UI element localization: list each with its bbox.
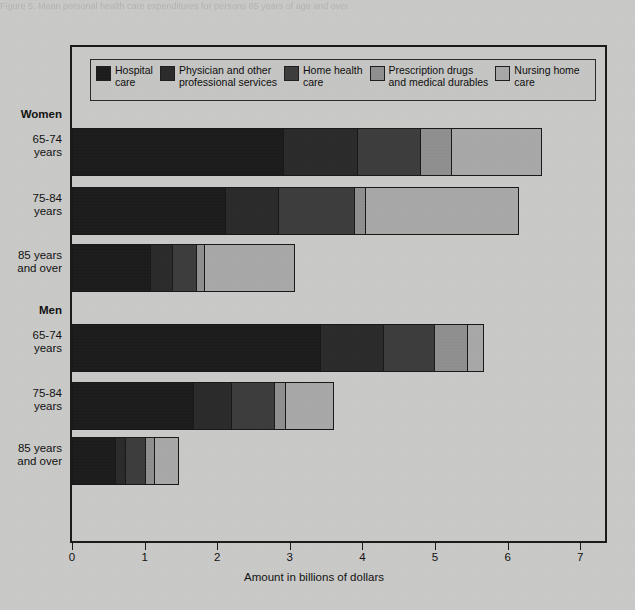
stacked-bar xyxy=(72,128,542,176)
bar-segment xyxy=(146,438,155,484)
bar-segment xyxy=(286,383,334,429)
chart-legend: Hospital care Physician and other profes… xyxy=(90,59,596,101)
bar-segment xyxy=(421,129,452,175)
x-tick-label: 4 xyxy=(359,551,365,563)
x-tick-mark xyxy=(290,543,291,550)
x-tick-label: 6 xyxy=(504,551,510,563)
bar-segment xyxy=(435,325,468,371)
stacked-bar xyxy=(72,244,295,292)
x-tick-mark xyxy=(362,543,363,550)
legend-item-home-health-care: Home health care xyxy=(284,65,363,88)
category-label-men-65-74: 65-74 years xyxy=(0,329,62,355)
x-tick-mark xyxy=(145,543,146,550)
bar-segment xyxy=(155,438,179,484)
bar-segment xyxy=(194,383,232,429)
legend-label-home-health-care: Home health care xyxy=(303,65,363,88)
bar-segment xyxy=(116,438,126,484)
bar-segment xyxy=(321,325,384,371)
bar-segment xyxy=(73,438,116,484)
category-label-women-65-74: 65-74 years xyxy=(0,133,62,159)
bar-segment xyxy=(284,129,358,175)
bar-segment xyxy=(232,383,275,429)
group-label-women: Women xyxy=(0,108,62,121)
x-tick-label: 1 xyxy=(141,551,147,563)
group-label-men: Men xyxy=(0,304,62,317)
category-label-men-85-over: 85 years and over xyxy=(0,442,62,468)
legend-item-hospital-care: Hospital care xyxy=(96,65,153,88)
x-tick-label: 0 xyxy=(69,551,75,563)
category-label-men-75-84: 75-84 years xyxy=(0,387,62,413)
category-label-women-85-over: 85 years and over xyxy=(0,249,62,275)
figure-chart: Hospital care Physician and other profes… xyxy=(8,22,620,588)
x-tick-label: 5 xyxy=(432,551,438,563)
legend-item-physician-services: Physician and other professional service… xyxy=(160,65,277,88)
x-tick-mark xyxy=(72,543,73,550)
bar-segment xyxy=(173,245,197,291)
x-axis-title: Amount in billions of dollars xyxy=(8,571,620,583)
bar-segment xyxy=(358,129,420,175)
bar-segment xyxy=(126,438,146,484)
bar-segment xyxy=(73,245,151,291)
bar-segment xyxy=(279,188,355,234)
scan-top-caption: Figure 5. Mean personal health care expe… xyxy=(0,0,635,12)
bar-segment xyxy=(275,383,285,429)
legend-label-nursing-home-care: Nursing home care xyxy=(514,65,579,88)
legend-label-physician-services: Physician and other professional service… xyxy=(179,65,277,88)
x-tick-mark xyxy=(435,543,436,550)
x-tick-label: 2 xyxy=(214,551,220,563)
bar-segment xyxy=(73,383,194,429)
category-label-women-75-84: 75-84 years xyxy=(0,192,62,218)
legend-swatch-prescription-drugs xyxy=(370,66,385,81)
stacked-bar xyxy=(72,382,334,430)
legend-swatch-nursing-home-care xyxy=(495,66,510,81)
stacked-bar xyxy=(72,324,484,372)
legend-label-hospital-care: Hospital care xyxy=(115,65,153,88)
legend-item-nursing-home-care: Nursing home care xyxy=(495,65,579,88)
x-tick-label: 3 xyxy=(287,551,293,563)
bar-segment xyxy=(73,325,321,371)
bar-segment xyxy=(205,245,294,291)
bar-segment xyxy=(355,188,366,234)
bar-segment xyxy=(73,129,284,175)
bar-segment xyxy=(226,188,279,234)
bar-segment xyxy=(468,325,483,371)
legend-swatch-physician-services xyxy=(160,66,175,81)
x-tick-mark xyxy=(508,543,509,550)
bar-segment xyxy=(366,188,518,234)
stacked-bar xyxy=(72,437,179,485)
legend-swatch-hospital-care xyxy=(96,66,111,81)
legend-label-prescription-drugs: Prescription drugs and medical durables xyxy=(389,65,489,88)
legend-swatch-home-health-care xyxy=(284,66,299,81)
bar-segment xyxy=(151,245,173,291)
bar-segment xyxy=(452,129,541,175)
bar-segment xyxy=(384,325,435,371)
x-tick-label: 7 xyxy=(577,551,583,563)
x-tick-mark xyxy=(580,543,581,550)
stacked-bar xyxy=(72,187,519,235)
bar-segment xyxy=(73,188,226,234)
bar-segment xyxy=(197,245,205,291)
x-tick-mark xyxy=(217,543,218,550)
legend-item-prescription-drugs: Prescription drugs and medical durables xyxy=(370,65,489,88)
